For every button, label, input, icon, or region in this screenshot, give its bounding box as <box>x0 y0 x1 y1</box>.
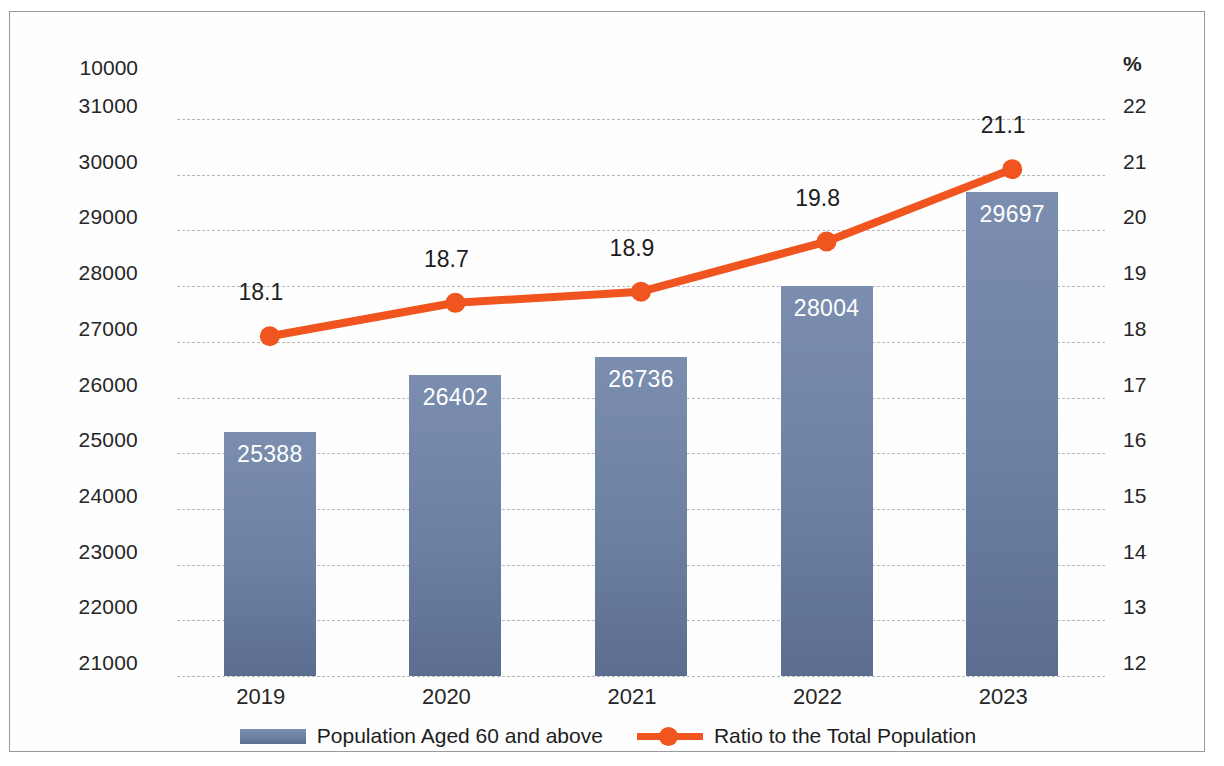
line-value-label: 18.9 <box>572 235 692 262</box>
right-axis-tick-label: 20 <box>1123 205 1146 229</box>
left-axis-tick-label: 28000 <box>79 261 138 285</box>
line-marker[interactable] <box>260 326 280 346</box>
right-axis-tick-label: 21 <box>1123 150 1146 174</box>
chart-frame: 10000 % 31000300002900028000270002600025… <box>9 11 1205 752</box>
left-axis-tick-label: 27000 <box>79 317 138 341</box>
legend-item-line-label: Ratio to the Total Population <box>714 724 976 748</box>
legend-item-bar[interactable]: Population Aged 60 and above <box>240 724 603 748</box>
x-axis-tick-label: 2020 <box>366 684 526 710</box>
bar-value-label: 29697 <box>966 201 1058 228</box>
bar-value-label: 25388 <box>224 441 316 468</box>
left-axis-tick-label: 21000 <box>79 651 138 675</box>
x-axis-tick-label: 2022 <box>738 684 898 710</box>
left-axis-tick-label: 31000 <box>79 94 138 118</box>
bar-value-label: 28004 <box>781 295 873 322</box>
left-axis-tick-label: 25000 <box>79 428 138 452</box>
legend-bar-swatch-icon <box>240 729 306 744</box>
right-axis-tick-label: 19 <box>1123 261 1146 285</box>
line-value-label: 21.1 <box>943 112 1063 139</box>
bar[interactable]: 26736 <box>595 357 687 676</box>
line-value-label: 18.7 <box>386 246 506 273</box>
line-marker[interactable] <box>1002 159 1022 179</box>
line-value-label: 18.1 <box>201 279 321 306</box>
bar-value-label: 26402 <box>409 384 501 411</box>
line-value-label: 19.8 <box>758 185 878 212</box>
line-marker[interactable] <box>631 282 651 302</box>
plot-area: 2538826402267362800429697 <box>177 119 1105 676</box>
right-axis-tick-label: 14 <box>1123 540 1146 564</box>
chart-legend: Population Aged 60 and above Ratio to th… <box>10 724 1206 748</box>
bar[interactable]: 25388 <box>224 432 316 676</box>
bar[interactable]: 28004 <box>781 286 873 676</box>
right-axis-tick-label: 13 <box>1123 595 1146 619</box>
gridline <box>177 175 1105 176</box>
right-axis-tick-label: 18 <box>1123 317 1146 341</box>
gridline <box>177 676 1105 677</box>
left-axis-tick-label: 26000 <box>79 373 138 397</box>
right-axis-unit-label: % <box>1123 52 1142 76</box>
left-axis-tick-label: 30000 <box>79 150 138 174</box>
bar-value-label: 26736 <box>595 366 687 393</box>
x-axis-tick-label: 2019 <box>181 684 341 710</box>
bar[interactable]: 29697 <box>966 192 1058 676</box>
left-axis-tick-label: 29000 <box>79 205 138 229</box>
legend-line-swatch-icon <box>637 725 703 747</box>
line-marker[interactable] <box>817 232 837 252</box>
legend-item-line[interactable]: Ratio to the Total Population <box>637 724 976 748</box>
right-axis-tick-label: 22 <box>1123 94 1146 118</box>
right-axis-tick-label: 15 <box>1123 484 1146 508</box>
right-axis-tick-label: 16 <box>1123 428 1146 452</box>
right-axis-tick-label: 17 <box>1123 373 1146 397</box>
x-axis-tick-label: 2023 <box>923 684 1083 710</box>
bar[interactable]: 26402 <box>409 375 501 676</box>
left-axis-tick-label: 24000 <box>79 484 138 508</box>
line-marker[interactable] <box>445 293 465 313</box>
x-axis-tick-label: 2021 <box>552 684 712 710</box>
left-axis-tick-label: 23000 <box>79 540 138 564</box>
right-axis-tick-label: 12 <box>1123 651 1146 675</box>
left-axis-tick-label: 22000 <box>79 595 138 619</box>
legend-item-bar-label: Population Aged 60 and above <box>317 724 603 748</box>
left-axis-unit-label: 10000 <box>80 56 138 80</box>
